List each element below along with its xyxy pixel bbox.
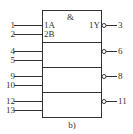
inversion-bubble-icon xyxy=(102,50,106,54)
inversion-bubble-icon xyxy=(102,75,106,79)
inversion-bubble-icon xyxy=(102,24,106,28)
nand-gate-diagram: & 1A 2B 1Y 1 2 4 5 9 10 12 13 3 6 8 11 b… xyxy=(0,0,133,134)
input-label-2b: 2B xyxy=(44,29,55,39)
inversion-bubble-icon xyxy=(102,100,106,104)
output-label-1y: 1Y xyxy=(89,20,101,30)
gate-symbol: & xyxy=(67,12,74,22)
pin-number: 3 xyxy=(118,20,123,30)
pin-number: 11 xyxy=(118,96,127,106)
pin-number: 5 xyxy=(11,55,16,65)
pin-number: 2 xyxy=(11,29,16,39)
figure-caption: b) xyxy=(68,120,76,130)
pin-number: 13 xyxy=(6,105,16,115)
pin-number: 8 xyxy=(118,71,123,81)
pin-number: 10 xyxy=(6,80,16,90)
pin-number: 6 xyxy=(118,46,123,56)
